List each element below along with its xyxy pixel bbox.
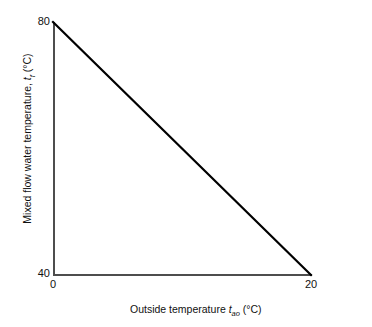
plot-area bbox=[53, 22, 311, 275]
y-axis-title: Mixed flow water temperature, tf (°C) bbox=[21, 24, 38, 254]
y-axis-title-units: (°C) bbox=[21, 53, 33, 72]
x-axis-title-subscript: ao bbox=[232, 309, 240, 318]
x-axis-tick-label-20: 20 bbox=[302, 279, 320, 290]
x-axis-title-text: Outside temperature bbox=[130, 303, 226, 315]
y-axis-title-subscript: f bbox=[28, 75, 37, 77]
chart-figure: 80 40 0 20 Mixed flow water temperature,… bbox=[0, 0, 372, 327]
x-axis-tick-label-0: 0 bbox=[46, 279, 60, 290]
x-axis-title-units: (°C) bbox=[243, 303, 262, 315]
y-axis-tick-label-40: 40 bbox=[33, 268, 50, 279]
y-axis-title-symbol: t bbox=[21, 77, 33, 80]
series-line-mixed-flow-water-temperature bbox=[53, 22, 311, 275]
x-axis-title: Outside temperature tao (°C) bbox=[130, 303, 360, 320]
y-axis-title-text: Mixed flow water temperature, bbox=[21, 83, 33, 224]
data-line bbox=[53, 22, 311, 275]
